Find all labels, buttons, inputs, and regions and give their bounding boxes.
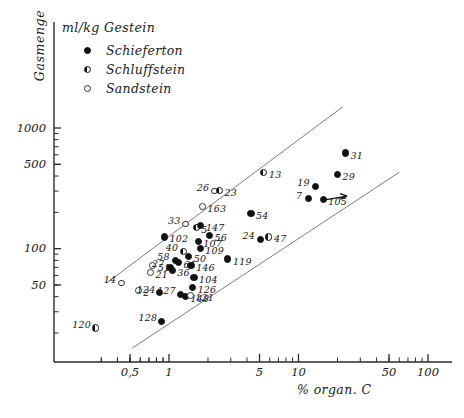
legend-label: Schieferton — [106, 43, 183, 58]
legend-marker-open-icon — [84, 85, 91, 92]
data-point-label: 7 — [296, 190, 302, 201]
data-point-marker — [216, 187, 223, 194]
legend-marker-full-icon — [84, 47, 91, 54]
plot-canvas — [0, 0, 464, 418]
legend-marker-half-icon — [84, 66, 91, 73]
x-axis-title: % organ. C — [297, 382, 371, 397]
x-tick-label: 1 — [149, 365, 189, 379]
data-point-label: 163 — [208, 203, 227, 214]
data-point-label: 29 — [343, 171, 356, 182]
x-tick-label: 100 — [408, 365, 448, 379]
data-point-label: 146 — [196, 262, 215, 273]
data-point-marker — [187, 292, 194, 299]
x-tick-label: 50 — [369, 365, 409, 379]
data-point-label: 54 — [256, 210, 269, 221]
y-tick-label: 50 — [6, 278, 46, 292]
data-point-label: 47 — [274, 233, 287, 244]
data-point-label: 14 — [104, 274, 117, 285]
data-point-marker — [257, 236, 264, 243]
data-point-marker — [320, 196, 327, 203]
data-point-marker — [342, 149, 349, 156]
data-point-marker — [199, 203, 206, 210]
data-point-marker — [175, 259, 182, 266]
data-point-label: 128 — [139, 312, 158, 323]
data-point-label: 124 — [137, 284, 156, 295]
unit-caption: ml/kg Gestein — [62, 20, 155, 35]
data-point-marker — [265, 233, 272, 240]
data-point-label: 127 — [157, 285, 176, 296]
data-point-marker — [169, 267, 176, 274]
data-point-label: 19 — [297, 177, 310, 188]
data-point-label: 120 — [72, 319, 91, 330]
y-tick-label: 100 — [6, 241, 46, 255]
legend-label: Sandstein — [106, 81, 172, 96]
data-point-marker — [197, 245, 204, 252]
data-point-label: 109 — [205, 245, 224, 256]
data-point-marker — [118, 280, 125, 287]
data-point-marker — [92, 324, 99, 331]
data-point-label: 23 — [224, 187, 237, 198]
data-point-marker — [187, 262, 194, 269]
data-point-marker — [189, 284, 196, 291]
data-point-label: 24 — [243, 230, 256, 241]
data-point-label: 33 — [168, 215, 181, 226]
chart-root: ml/kg Gestein Gasmenge % organ. C Schief… — [0, 0, 464, 418]
legend-label: Schluffstein — [106, 62, 185, 77]
data-point-marker — [312, 183, 319, 190]
x-tick-label: 10 — [278, 365, 318, 379]
data-point-label: 40 — [166, 242, 179, 253]
x-tick-label: 0,5 — [110, 365, 150, 379]
data-point-label: 105 — [328, 196, 347, 207]
data-point-label: 31 — [350, 150, 363, 161]
data-point-label: 119 — [233, 256, 252, 267]
y-axis-title: Gasmenge — [32, 1, 47, 91]
data-point-label: 13 — [269, 169, 282, 180]
data-point-marker — [195, 238, 202, 245]
data-point-label: 56 — [214, 232, 227, 243]
y-tick-label: 500 — [6, 157, 46, 171]
data-point-marker — [247, 210, 254, 217]
data-point-marker — [190, 274, 197, 281]
y-tick-label: 1000 — [6, 121, 46, 135]
data-point-label: 126 — [198, 284, 217, 295]
axis-ticks — [54, 128, 428, 362]
data-point-marker — [161, 233, 168, 240]
data-point-label: 26 — [197, 182, 210, 193]
x-tick-label: 5 — [240, 365, 280, 379]
